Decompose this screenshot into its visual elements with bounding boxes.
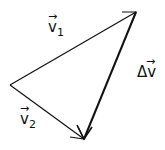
vector-arrow-icon: →	[146, 56, 155, 67]
vector-arrow-icon: →	[20, 103, 29, 114]
vector-v1-line	[10, 12, 136, 85]
vector-dv-line	[84, 12, 136, 139]
label-v2: →v2	[20, 112, 36, 127]
label-delta-v: →Δv	[137, 65, 156, 80]
vector-arrow-icon: →	[48, 11, 57, 22]
label-v1: →v1	[48, 20, 64, 35]
